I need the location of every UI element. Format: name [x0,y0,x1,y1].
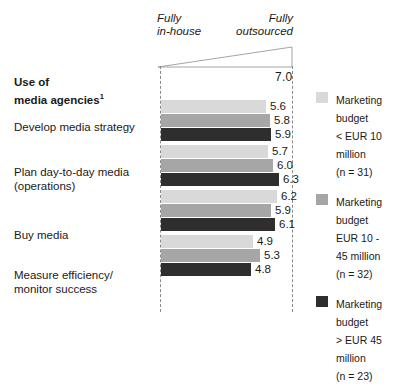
legend-item-budget-over-45m: Marketing budget > EUR 45 million (n = 2… [316,294,404,384]
bar-value-label: 5.8 [274,113,290,127]
bar-value-label: 4.9 [257,234,273,248]
category-label-develop-media-strategy: Develop media strategy [14,121,154,135]
category-label-measure-efficiency: Measure efficiency/ monitor success [14,269,154,296]
bar [161,173,279,186]
chart-heading-text: Use of media agencies [14,76,100,105]
bar-value-label: 5.9 [275,203,291,217]
category-label-plan-day-to-day-media: Plan day-to-day media (operations) [14,166,154,193]
bar-value-label: 4.8 [255,262,271,276]
bar [161,100,266,113]
bar-value-label: 5.7 [272,144,288,158]
bar-value-label: 5.3 [264,248,280,262]
legend-item-budget-under-10m: Marketing budget < EUR 10 million (n = 3… [316,90,404,180]
legend-item-budget-10-45m: Marketing budget EUR 10 - 45 million (n … [316,192,404,282]
bar [161,128,271,141]
bar [161,263,251,276]
bar [161,249,260,262]
funnel-wedge-graphic [158,44,294,70]
bar-value-label: 5.6 [270,99,286,113]
scale-caption-in-house: Fully in-house [157,12,201,38]
footnote-marker: 1 [100,92,104,101]
bar-value-label: 6.1 [279,217,295,231]
legend-item-label: Marketing budget EUR 10 - 45 million (n … [336,196,382,280]
bar [161,114,270,127]
legend-swatch-icon [316,92,328,103]
bar-value-label: 6.2 [281,189,297,203]
bar [161,190,277,203]
bar [161,204,271,217]
bar [161,159,273,172]
legend-item-label: Marketing budget > EUR 45 million (n = 2… [336,298,382,382]
legend-swatch-icon [316,194,328,205]
bar [161,145,268,158]
axis-max-value-label: 7.0 [275,70,293,84]
bar [161,235,253,248]
scale-caption-outsourced: Fully outsourced [213,12,293,38]
category-label-buy-media: Buy media [14,229,154,243]
bar-value-label: 5.9 [275,127,291,141]
bar-value-label: 6.0 [277,158,293,172]
bar [161,218,275,231]
chart-heading: Use of media agencies1 [14,76,154,107]
legend-item-label: Marketing budget < EUR 10 million (n = 3… [336,94,382,178]
bar-value-label: 6.3 [283,172,299,186]
legend: Marketing budget < EUR 10 million (n = 3… [316,90,404,386]
legend-swatch-icon [316,296,328,307]
